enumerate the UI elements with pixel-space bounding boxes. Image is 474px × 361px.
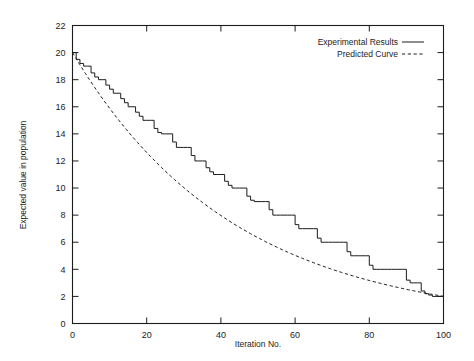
legend-label: Experimental Results <box>318 37 398 47</box>
y-axis-title: Expected value in population <box>18 120 28 229</box>
y-tick-label: 18 <box>55 75 65 85</box>
y-tick-label: 20 <box>55 48 65 58</box>
x-tick-label: 40 <box>216 330 226 340</box>
chart-svg: 0246810121416182022 020406080100 Iterati… <box>0 0 474 361</box>
y-tick-label: 12 <box>55 156 65 166</box>
x-tick-label: 0 <box>70 330 75 340</box>
y-tick-label: 4 <box>60 265 65 275</box>
y-tick-label: 2 <box>60 292 65 302</box>
legend-label: Predicted Curve <box>337 49 398 59</box>
x-axis-title: Iteration No. <box>235 339 281 349</box>
x-tick-label: 20 <box>142 330 152 340</box>
y-tick-label: 0 <box>60 319 65 329</box>
y-tick-label: 6 <box>60 237 65 247</box>
x-tick-label: 80 <box>364 330 374 340</box>
chart-figure: 0246810121416182022 020406080100 Iterati… <box>0 0 474 361</box>
x-tick-label: 100 <box>436 330 451 340</box>
y-tick-label: 16 <box>55 102 65 112</box>
y-tick-label: 22 <box>55 21 65 31</box>
y-tick-label: 14 <box>55 129 65 139</box>
y-tick-label: 8 <box>60 210 65 220</box>
y-tick-label: 10 <box>55 183 65 193</box>
x-tick-label: 60 <box>290 330 300 340</box>
